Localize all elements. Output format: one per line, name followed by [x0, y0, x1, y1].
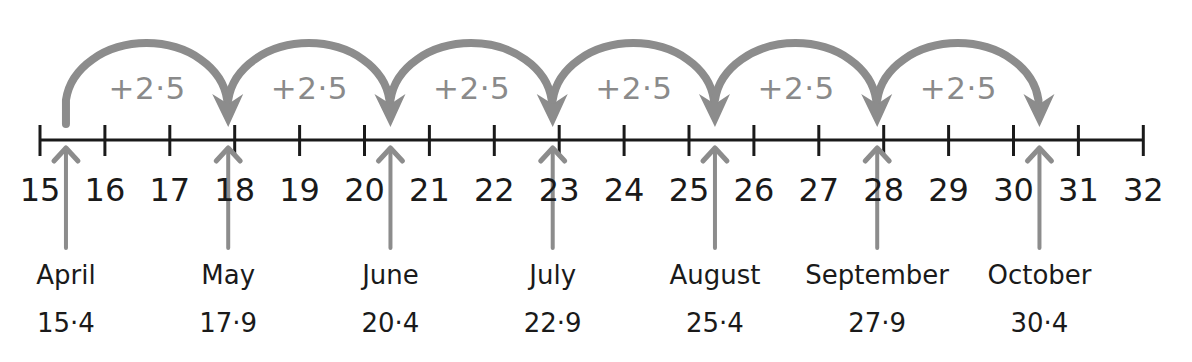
tick-label: 20: [335, 170, 395, 210]
month-label-may: May: [138, 258, 318, 292]
tick-label: 31: [1048, 170, 1108, 210]
value-label-july: 22·9: [483, 306, 623, 340]
tick-label: 25: [659, 170, 719, 210]
tick-label: 22: [464, 170, 524, 210]
month-label-july: July: [463, 258, 643, 292]
value-label-october: 30·4: [969, 306, 1109, 340]
tick-label: 27: [789, 170, 849, 210]
month-label-september: September: [787, 258, 967, 292]
jump-label: +2·5: [579, 70, 689, 106]
tick-label: 24: [594, 170, 654, 210]
month-label-june: June: [300, 258, 480, 292]
tick-label: 18: [205, 170, 265, 210]
value-label-april: 15·4: [0, 306, 136, 340]
tick-label: 16: [75, 170, 135, 210]
jump-label: +2·5: [254, 70, 364, 106]
value-label-august: 25·4: [645, 306, 785, 340]
jump-label: +2·5: [417, 70, 527, 106]
value-label-september: 27·9: [807, 306, 947, 340]
tick-label: 30: [984, 170, 1044, 210]
tick-label: 28: [854, 170, 914, 210]
month-label-april: April: [0, 258, 156, 292]
value-label-june: 20·4: [320, 306, 460, 340]
tick-label: 15: [10, 170, 70, 210]
tick-label: 26: [724, 170, 784, 210]
value-label-may: 17·9: [158, 306, 298, 340]
jump-label: +2·5: [92, 70, 202, 106]
jump-label: +2·5: [903, 70, 1013, 106]
tick-label: 23: [529, 170, 589, 210]
tick-label: 29: [919, 170, 979, 210]
tick-label: 32: [1113, 170, 1173, 210]
month-label-august: August: [625, 258, 805, 292]
month-label-october: October: [949, 258, 1129, 292]
number-line-diagram: +2·5 +2·5 +2·5 +2·5 +2·5 +2·5 15 16 17 1…: [0, 0, 1192, 362]
jump-label: +2·5: [741, 70, 851, 106]
tick-label: 21: [399, 170, 459, 210]
tick-label: 19: [270, 170, 330, 210]
tick-label: 17: [140, 170, 200, 210]
